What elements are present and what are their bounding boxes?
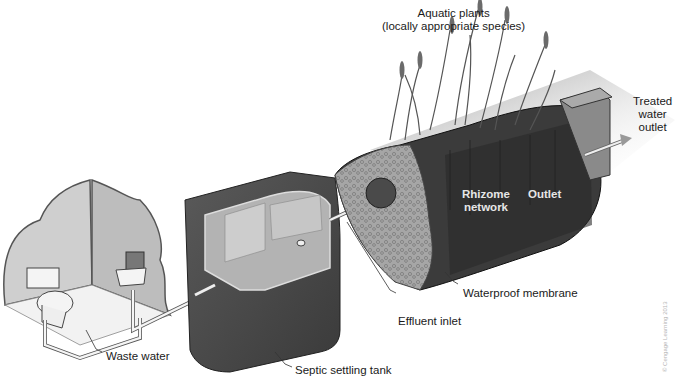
label-treated-line3: outlet [633,121,672,134]
label-treated-line2: water [633,108,672,121]
label-rhizome-network: Rhizome network [462,188,510,214]
label-outlet: Outlet [528,188,561,201]
label-waterproof-membrane: Waterproof membrane [463,287,578,300]
wetland-diagram [0,0,675,380]
label-aquatic-plants-line2: (locally appropriate species) [382,20,525,33]
bathroom-illustration [4,180,205,358]
copyright-notice: © Cengage Learning 2013 [662,302,668,372]
label-rhizome-line2: network [462,201,510,214]
label-treated-water-outlet: Treated water outlet [633,95,672,134]
label-septic-settling-tank: Septic settling tank [295,364,392,377]
label-aquatic-plants: Aquatic plants (locally appropriate spec… [382,7,525,33]
wetland-cell-illustration [335,0,632,290]
label-rhizome-line1: Rhizome [462,188,510,201]
label-aquatic-plants-line1: Aquatic plants [382,7,525,20]
label-waste-water: Waste water [106,350,169,363]
label-effluent-inlet: Effluent inlet [398,315,461,328]
septic-tank-illustration [185,172,356,372]
label-treated-line1: Treated [633,95,672,108]
